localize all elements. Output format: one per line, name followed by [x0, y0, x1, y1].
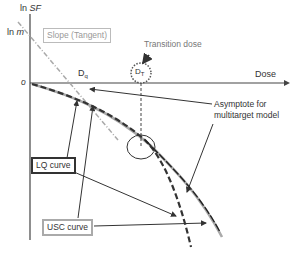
lq-arrow-2 [74, 172, 176, 216]
asymptote-arrow-2 [187, 124, 213, 192]
usc-curve-label: USC curve [42, 219, 93, 236]
dt-label: DT [135, 68, 144, 77]
transition-dose-label: Transition dose [144, 40, 202, 49]
lq-curve-label: LQ curve [31, 157, 76, 174]
asymptote-label-line1: Asymptote for [214, 100, 266, 109]
usc-arrow-1 [78, 106, 93, 218]
x-axis-label: Dose [255, 70, 276, 79]
usc-arrow-2 [94, 223, 206, 226]
y-tick-ln-m: ln m [7, 28, 24, 37]
x-axis-arrow-icon [284, 80, 290, 86]
transition-arrow [143, 55, 149, 63]
y-axis-label: ln SF [20, 4, 41, 13]
asymptote-arrow-1 [90, 89, 212, 104]
asymptote-label-line2: multitarget model [214, 111, 279, 120]
origin-label: o [21, 78, 26, 87]
lq-arrow-1 [67, 101, 77, 158]
slope-label: Slope (Tangent) [43, 28, 111, 43]
dq-label: Dq [78, 69, 88, 79]
